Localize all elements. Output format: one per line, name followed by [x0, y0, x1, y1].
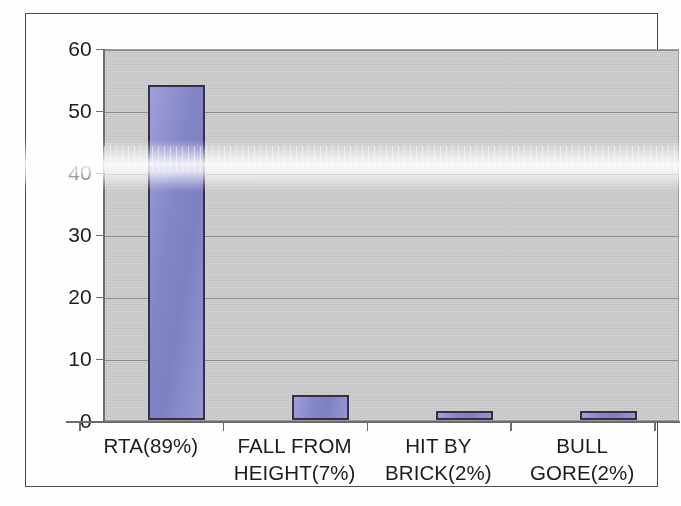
y-tick-mark-10 — [96, 359, 104, 361]
chart-frame: 6050403020100 RTA(89%)FALL FROMHEIGHT(7%… — [25, 13, 658, 487]
y-axis-tick-labels: 6050403020100 — [26, 14, 92, 488]
x-tick-mark-0 — [79, 422, 81, 431]
x-tick-mark-1 — [223, 422, 225, 431]
x-tick-label-line: BRICK(2%) — [367, 459, 511, 486]
x-axis-line — [66, 421, 680, 423]
plot-area — [104, 49, 679, 421]
y-tick-label-60: 60 — [48, 38, 92, 59]
y-tick-label-50: 50 — [48, 100, 92, 121]
gridline-60 — [105, 50, 678, 51]
x-tick-mark-2 — [367, 422, 369, 431]
x-tick-label-line: RTA(89%) — [79, 432, 223, 459]
x-tick-label-1: FALL FROMHEIGHT(7%) — [223, 432, 367, 487]
y-tick-label-30: 30 — [48, 224, 92, 245]
x-tick-label-2: HIT BYBRICK(2%) — [367, 432, 511, 487]
y-tick-label-40: 40 — [48, 162, 92, 183]
x-tick-mark-4 — [654, 422, 656, 431]
y-tick-mark-60 — [96, 49, 104, 51]
y-tick-label-20: 20 — [48, 286, 92, 307]
x-tick-label-line: BULL — [510, 432, 654, 459]
bar — [148, 85, 205, 420]
bar — [436, 411, 493, 420]
bar — [292, 395, 349, 420]
y-tick-label-10: 10 — [48, 348, 92, 369]
x-tick-label-0: RTA(89%) — [79, 432, 223, 459]
x-tick-label-3: BULLGORE(2%) — [510, 432, 654, 487]
scanned-page-background: 6050403020100 RTA(89%)FALL FROMHEIGHT(7%… — [0, 0, 681, 506]
x-tick-label-line: HEIGHT(7%) — [223, 459, 367, 486]
x-tick-label-line: GORE(2%) — [510, 459, 654, 486]
bar — [580, 411, 637, 420]
y-tick-mark-40 — [96, 173, 104, 175]
x-tick-mark-3 — [510, 422, 512, 431]
y-tick-mark-20 — [96, 297, 104, 299]
y-tick-mark-50 — [96, 111, 104, 113]
x-tick-label-line: HIT BY — [367, 432, 511, 459]
x-tick-label-line: FALL FROM — [223, 432, 367, 459]
y-tick-mark-30 — [96, 235, 104, 237]
